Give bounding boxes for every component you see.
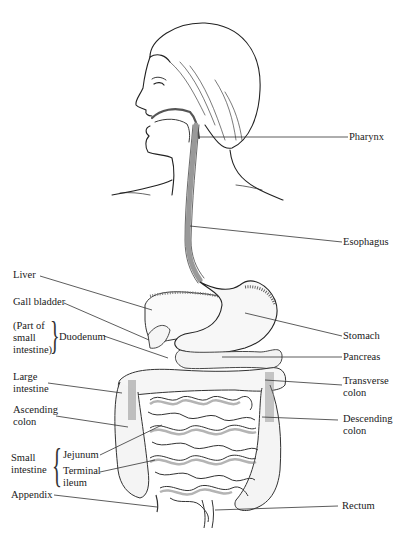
label-transverse-colon-line2: colon [343,387,366,399]
head-drawing [112,23,283,200]
label-ascending-colon-line1: Ascending [13,404,58,416]
label-stomach: Stomach [343,330,380,342]
small-intestine-brace: { [52,441,62,491]
label-small-intestine-line2: intestine [11,464,47,476]
esophagus-drawing [185,125,204,283]
label-gall-bladder: Gall bladder [13,296,65,308]
label-rectum: Rectum [342,500,375,512]
appendix-drawing [156,495,158,512]
label-jejunum: Jejunum [63,449,99,461]
label-pharynx: Pharynx [349,131,384,143]
label-large-intestine-line1: Large [13,371,37,383]
leader-large-intestine [48,383,122,393]
label-appendix: Appendix [11,489,52,501]
label-ascending-colon-line2: colon [13,416,36,428]
label-descending-colon-line1: Descending [343,413,393,425]
label-part-of-line2: small [13,332,36,344]
leader-rectum [215,506,338,510]
pancreas-drawing [175,350,282,369]
label-descending-colon-line2: colon [343,425,366,437]
label-large-intestine-line2: intestine [13,383,49,395]
label-part-of-line3: intestine) [13,344,52,356]
label-esophagus: Esophagus [343,236,389,248]
leader-esophagus [190,226,342,242]
label-pancreas: Pancreas [343,351,380,363]
label-terminal-ileum-line1: Terminal [63,465,101,477]
label-small-intestine-line1: Small [11,452,36,464]
transverse-colon-drawing [118,368,285,395]
digestive-system-diagram: Pharynx Esophagus Stomach Pancreas Trans… [0,0,403,533]
label-duodenum: Duodenum [59,331,106,343]
label-part-of-line1: (Part of [13,320,45,332]
label-transverse-colon-line1: Transverse [343,375,389,387]
label-liver: Liver [13,269,36,281]
label-terminal-ileum-line2: ileum [63,477,87,489]
